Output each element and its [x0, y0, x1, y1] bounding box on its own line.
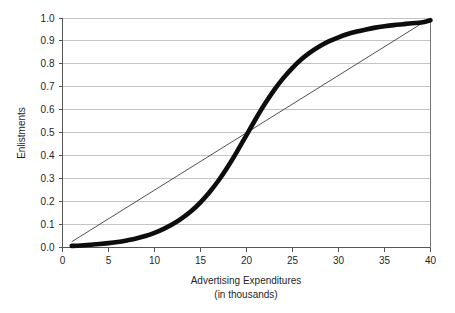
y-axis-tick-label: 0.6: [41, 104, 55, 115]
chart-background: [0, 0, 455, 313]
x-axis-tick-label: 35: [379, 255, 391, 266]
x-axis-tick-label: 10: [149, 255, 161, 266]
y-axis-tick-label: 0.8: [41, 58, 55, 69]
x-axis-subtitle: (in thousands): [214, 289, 277, 300]
line-chart: 0.00.10.20.30.40.50.60.70.80.91.0 051015…: [0, 0, 455, 313]
x-axis-tick-label: 25: [287, 255, 299, 266]
y-axis-tick-label: 0.0: [41, 242, 55, 253]
y-axis-tick-label: 0.3: [41, 173, 55, 184]
y-axis-tick-label: 0.2: [41, 196, 55, 207]
x-axis-tick-label: 20: [241, 255, 253, 266]
x-axis-tick-label: 30: [333, 255, 345, 266]
x-axis-tick-label: 15: [195, 255, 207, 266]
x-axis-title: Advertising Expenditures: [191, 275, 302, 286]
x-axis-tick-label: 5: [106, 255, 112, 266]
y-axis-tick-label: 0.7: [41, 81, 55, 92]
x-axis-tick-label: 40: [425, 255, 437, 266]
y-axis-tick-label: 0.4: [41, 150, 55, 161]
y-axis-title: Enlistments: [16, 107, 27, 159]
chart-container: 0.00.10.20.30.40.50.60.70.80.91.0 051015…: [0, 0, 455, 313]
y-axis-tick-label: 0.1: [41, 219, 55, 230]
y-axis-tick-label: 0.5: [41, 127, 55, 138]
x-axis-tick-label: 0: [60, 255, 66, 266]
y-axis-tick-label: 1.0: [41, 13, 55, 24]
y-axis-tick-label: 0.9: [41, 35, 55, 46]
